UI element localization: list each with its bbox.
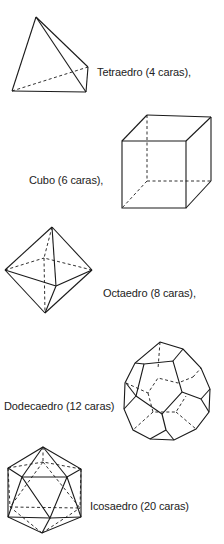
cube-figure: [122, 115, 211, 208]
octahedron-label: Octaedro (8 caras),: [103, 287, 196, 299]
icosahedron-label: Icosaedro (20 caras): [90, 500, 189, 512]
tetrahedron-figure: [12, 17, 88, 92]
icosahedron-figure: [8, 447, 81, 533]
platonic-solids-diagram: [0, 0, 224, 544]
dodecahedron-label: Dodecaedro (12 caras): [4, 400, 114, 412]
cube-label: Cubo (6 caras),: [29, 174, 103, 186]
octahedron-figure: [5, 227, 92, 313]
dodecahedron-figure: [124, 342, 210, 440]
tetrahedron-label: Tetraedro (4 caras),: [97, 66, 191, 78]
